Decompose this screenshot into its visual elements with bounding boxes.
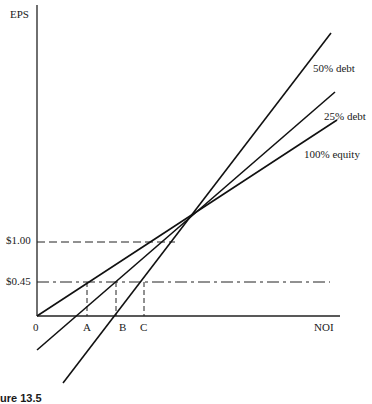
y-axis-label: EPS [10,8,29,20]
line-50-debt [63,33,331,383]
marker-c: C [140,321,147,333]
tick-label-0-45: $0.45 [6,275,31,287]
series-label-50-debt: 50% debt [313,62,355,74]
line-100-equity [37,120,337,316]
x-axis-label: NOI [314,321,334,333]
series-label-25-debt: 25% debt [324,110,366,122]
marker-b: B [119,321,126,333]
eps-noi-chart [0,0,372,404]
figure-caption: ure 13.5 [0,392,42,404]
line-25-debt [37,92,335,350]
origin-label: 0 [33,321,39,333]
series-label-100-equity: 100% equity [304,148,360,160]
tick-label-1-00: $1.00 [6,234,31,246]
marker-a: A [83,321,91,333]
